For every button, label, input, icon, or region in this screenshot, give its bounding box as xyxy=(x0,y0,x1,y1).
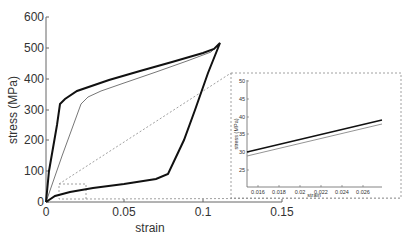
y-tick-label: 400 xyxy=(24,72,44,86)
y-tick-label: 500 xyxy=(24,41,44,55)
x-tick-label: 0.1 xyxy=(195,205,212,219)
inset-y-tick-label: 40 xyxy=(239,114,245,120)
stress-strain-figure: 0 100 200 300 400 500 600 0 0.05 0.1 0.1… xyxy=(0,0,406,237)
inset-y-axis-label: stress (MPa) xyxy=(233,118,239,149)
inset-x-tick-label: 0.018 xyxy=(272,189,286,195)
y-axis-label: stress (MPa) xyxy=(6,76,20,144)
y-tick-label: 300 xyxy=(24,103,44,117)
inset-y-tick-label: 45 xyxy=(239,96,245,102)
inset-y-tick-label: 30 xyxy=(239,149,245,155)
inset-x-tick-label: 0.02 xyxy=(295,189,306,195)
inset-y-tick-label: 50 xyxy=(239,78,245,84)
series-thin-loading xyxy=(46,43,220,202)
inset-y-tick-label: 25 xyxy=(239,167,245,173)
x-tick-label: 0.05 xyxy=(112,205,136,219)
series-thick-cycle xyxy=(46,43,220,202)
inset-x-axis-label: strain xyxy=(307,192,320,198)
inset-x-tick-label: 0.024 xyxy=(335,189,349,195)
inset-x-tick-label: 0.026 xyxy=(356,189,370,195)
inset-panel: 25 30 35 40 45 50 0.016 0.018 0.02 0.022… xyxy=(231,73,401,198)
y-tick-label: 100 xyxy=(24,164,44,178)
x-tick-label: 0 xyxy=(43,205,50,219)
y-tick-label: 200 xyxy=(24,133,44,147)
chart-canvas: 0 100 200 300 400 500 600 0 0.05 0.1 0.1… xyxy=(0,0,406,237)
y-tick-label: 600 xyxy=(24,10,44,24)
inset-y-tick-label: 35 xyxy=(239,131,245,137)
x-tick-label: 0.15 xyxy=(270,205,294,219)
inset-x-tick-label: 0.016 xyxy=(251,189,265,195)
x-axis-label: strain xyxy=(135,221,164,235)
